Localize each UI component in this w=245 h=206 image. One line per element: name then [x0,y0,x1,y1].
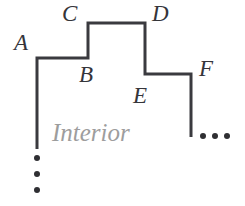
interior-region-label: Interior [52,120,130,145]
ellipsis-dot-vertical-3 [34,187,40,193]
vertex-label-D: D [152,2,169,25]
ellipsis-dot-vertical-1 [34,155,40,161]
vertex-label-C: C [62,2,77,25]
boundary-diagram-svg [0,0,245,206]
vertex-label-A: A [14,31,28,54]
vertex-label-E: E [133,84,147,107]
horizontal-ellipsis-dots [200,133,230,139]
ellipsis-dot-horizontal-2 [212,133,218,139]
ellipsis-dot-horizontal-3 [224,133,230,139]
ellipsis-dot-vertical-2 [34,171,40,177]
vertical-ellipsis-dots [34,155,40,193]
ellipsis-dot-horizontal-1 [200,133,206,139]
vertex-label-F: F [199,57,213,80]
figure-canvas: A C D B E F Interior [0,0,245,206]
vertex-label-B: B [79,63,93,86]
